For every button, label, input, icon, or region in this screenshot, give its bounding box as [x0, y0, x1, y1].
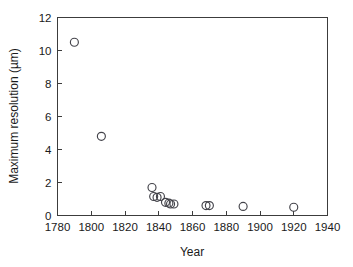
x-tick-label: 1800 — [78, 221, 104, 233]
data-point-group — [70, 38, 297, 211]
y-axis-ticks: 024681012 — [39, 12, 62, 222]
x-tick-label: 1880 — [213, 221, 239, 233]
scatter-chart-figure: 178018001820184018601880190019201940 024… — [0, 0, 353, 267]
x-tick-label: 1940 — [315, 221, 341, 233]
data-point-marker — [239, 202, 247, 210]
y-tick-label: 12 — [39, 12, 52, 24]
x-tick-label: 1920 — [281, 221, 307, 233]
y-tick-label: 8 — [45, 78, 51, 90]
x-tick-label: 1780 — [45, 221, 71, 233]
data-point-marker — [97, 132, 105, 140]
y-tick-label: 0 — [45, 210, 51, 222]
x-tick-label: 1820 — [112, 221, 138, 233]
x-axis-title: Year — [180, 245, 204, 259]
x-tick-label: 1840 — [146, 221, 172, 233]
data-point-marker — [70, 38, 78, 46]
x-axis-ticks: 178018001820184018601880190019201940 — [45, 211, 341, 233]
y-axis-title: Maximum resolution (µm) — [7, 48, 21, 184]
plot-frame — [58, 18, 328, 216]
data-point-marker — [148, 183, 156, 191]
y-tick-label: 4 — [45, 144, 52, 156]
y-tick-label: 6 — [45, 111, 51, 123]
data-point-marker — [290, 203, 298, 211]
y-tick-label: 10 — [39, 45, 52, 57]
y-tick-label: 2 — [45, 177, 51, 189]
plot-canvas: 178018001820184018601880190019201940 024… — [0, 0, 353, 267]
x-tick-label: 1900 — [247, 221, 273, 233]
x-tick-label: 1860 — [180, 221, 206, 233]
